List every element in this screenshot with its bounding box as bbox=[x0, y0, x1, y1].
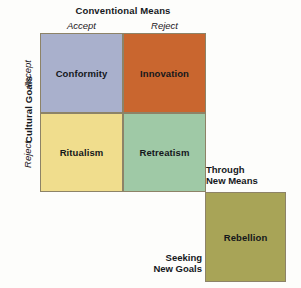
cell-label-ritualism: Ritualism bbox=[60, 147, 104, 158]
annotation-seeking-new-goals-line2: New Goals bbox=[153, 263, 202, 274]
cell-label-conformity: Conformity bbox=[56, 68, 108, 79]
cell-label-retreatism: Retreatism bbox=[139, 147, 189, 158]
column-label-accept: Accept bbox=[40, 20, 123, 31]
annotation-seeking-new-goals-line1: Seeking bbox=[166, 252, 202, 263]
annotation-through-new-means: Through New Means bbox=[206, 164, 298, 186]
cell-conformity[interactable]: Conformity bbox=[40, 33, 123, 113]
annotation-through-new-means-line2: New Means bbox=[206, 175, 258, 186]
cell-retreatism[interactable]: Retreatism bbox=[123, 113, 206, 192]
column-axis-title: Conventional Means bbox=[40, 5, 206, 16]
annotation-seeking-new-goals: Seeking New Goals bbox=[126, 252, 202, 274]
cell-ritualism[interactable]: Ritualism bbox=[40, 113, 123, 192]
row-label-accept: Accept bbox=[22, 45, 33, 105]
row-label-reject: Reject bbox=[22, 125, 33, 185]
cell-label-innovation: Innovation bbox=[140, 68, 189, 79]
strain-theory-diagram: Conventional Means Accept Reject Cultura… bbox=[0, 0, 301, 288]
cell-label-rebellion: Rebellion bbox=[224, 232, 268, 243]
cell-rebellion[interactable]: Rebellion bbox=[205, 192, 286, 282]
annotation-through-new-means-line1: Through bbox=[206, 164, 245, 175]
column-label-reject: Reject bbox=[123, 20, 206, 31]
cell-innovation[interactable]: Innovation bbox=[123, 33, 206, 113]
